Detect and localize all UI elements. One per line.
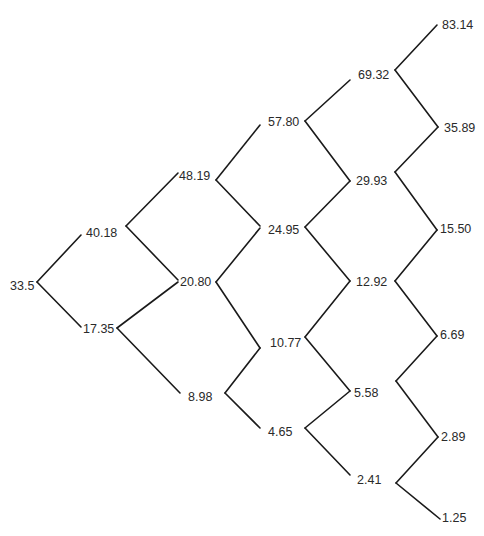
tree-edge [395,281,437,336]
node-value-label: 1.25 [442,511,466,525]
tree-edge [305,281,350,337]
tree-edge [395,70,438,127]
tree-edge [396,336,437,381]
node-value-label: 20.80 [180,275,211,289]
node-value-label: 69.32 [358,68,389,82]
tree-edge [216,125,260,180]
node-value-label: 48.19 [179,169,210,183]
node-value-label: 5.58 [354,386,378,400]
tree-node-labels: 33.540.1817.3548.1920.808.9857.8024.9510… [10,18,475,525]
tree-edge [117,328,180,393]
tree-edge [395,230,437,281]
node-value-label: 15.50 [440,222,471,236]
tree-edge [395,172,437,230]
tree-edge [126,173,178,226]
tree-edge [395,127,438,172]
node-value-label: 10.77 [270,336,301,350]
tree-edge [225,393,260,428]
node-value-label: 6.69 [440,328,464,342]
tree-edge [216,180,260,226]
node-value-label: 8.98 [188,390,212,404]
node-value-label: 24.95 [268,223,299,237]
tree-edge [37,235,81,282]
tree-edge [305,391,350,428]
node-value-label: 35.89 [444,121,475,135]
tree-edge [216,282,260,348]
node-value-label: 4.65 [268,425,292,439]
node-value-label: 2.41 [357,473,381,487]
tree-edge [305,80,350,121]
tree-edge [396,437,438,483]
tree-edge [117,282,178,328]
node-value-label: 12.92 [356,275,387,289]
tree-edge [216,228,260,282]
tree-edge [305,181,350,227]
tree-edge [305,428,350,475]
binomial-tree-diagram: 33.540.1817.3548.1920.808.9857.8024.9510… [0,0,484,536]
node-value-label: 29.93 [356,174,387,188]
tree-edge [225,348,260,393]
node-value-label: 2.89 [441,430,465,444]
tree-edge [396,381,438,437]
tree-edge [305,337,350,391]
tree-edge [395,25,437,70]
tree-edge [305,121,350,181]
tree-edge [126,226,178,280]
tree-edge [396,483,440,519]
node-value-label: 40.18 [86,226,117,240]
node-value-label: 33.5 [10,279,34,293]
node-value-label: 57.80 [268,115,299,129]
tree-edges [37,25,440,519]
tree-edge [305,227,350,281]
node-value-label: 83.14 [442,18,473,32]
tree-edge [37,282,81,327]
node-value-label: 17.35 [83,322,114,336]
